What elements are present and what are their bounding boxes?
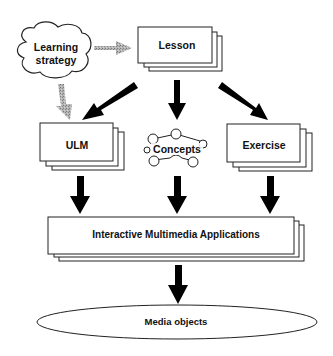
lesson-node: Lesson <box>138 27 222 71</box>
exercise-node: Exercise <box>227 124 312 171</box>
media-objects-node: Media objects <box>37 305 317 339</box>
ulm-node: ULM <box>40 123 124 170</box>
ima-node: Interactive Multimedia Applications <box>48 217 304 261</box>
arrow-exercise-to-ima <box>260 176 280 214</box>
learning-strategy-label-line2: strategy <box>36 54 77 66</box>
arrow-lesson-to-concepts <box>168 80 186 120</box>
gray-arrow-to-ulm <box>56 84 72 120</box>
lesson-label: Lesson <box>159 39 196 51</box>
concepts-label: Concepts <box>153 143 201 155</box>
media-objects-label: Media objects <box>145 316 208 327</box>
arrow-concepts-to-ima <box>167 176 187 214</box>
arrow-lesson-to-exercise <box>218 82 268 120</box>
arrow-ulm-to-ima <box>70 176 90 214</box>
concepts-node: Concepts <box>144 129 207 167</box>
gray-arrow-to-lesson <box>94 41 132 55</box>
ima-label: Interactive Multimedia Applications <box>92 229 260 240</box>
arrow-lesson-to-ulm <box>82 82 138 120</box>
exercise-label: Exercise <box>242 139 285 151</box>
arrow-ima-to-media <box>168 265 188 304</box>
learning-strategy-node: Learning strategy <box>17 22 91 78</box>
diagram-canvas: Learning strategy Lesson ULM <box>0 0 333 356</box>
ulm-label: ULM <box>66 139 89 151</box>
learning-strategy-label-line1: Learning <box>34 41 78 53</box>
